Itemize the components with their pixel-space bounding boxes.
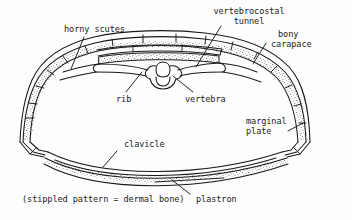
leader-plastron <box>172 180 190 194</box>
turtle-shell-cross-section-figure: horny scutes vertebrocostal tunnel bony … <box>0 0 352 220</box>
marginal-plate-left-seam <box>30 148 36 154</box>
marginal-plate-left-inner <box>30 142 48 152</box>
label-clavicle: clavicle <box>124 139 165 150</box>
costal-plate-left <box>60 72 96 80</box>
vertebra-body <box>156 62 170 77</box>
label-marginal-plate-line1: marginal <box>246 116 287 127</box>
label-vertebrocostal-tunnel-line1: vertebrocostal <box>190 6 308 17</box>
rib-left-cap <box>93 64 99 72</box>
leader-vertebra <box>173 76 193 92</box>
vertebra-left-process <box>145 66 156 79</box>
label-bony-carapace-line2: carapace <box>271 39 312 50</box>
rib-left <box>99 64 148 70</box>
rib-left-lower <box>96 72 146 76</box>
costal-plate-right <box>223 72 261 82</box>
rib-right-lower <box>180 72 223 76</box>
label-bony-carapace-line1: bony <box>278 29 298 40</box>
rib-right-cap <box>219 63 225 72</box>
label-marginal-plate-line2: plate <box>246 126 271 137</box>
label-plastron: plastron <box>196 194 237 205</box>
label-rib: rib <box>116 94 131 105</box>
label-horny-scutes: horny scutes <box>64 24 125 35</box>
label-stipple-key: (stippled pattern = dermal bone) <box>22 194 184 205</box>
diagram-drawing <box>0 0 352 220</box>
vertebra-lower-arch-inner <box>156 77 170 86</box>
marginal-plate-right <box>287 142 310 157</box>
leader-rib <box>126 72 142 92</box>
leader-clavicle <box>103 151 117 167</box>
label-vertebrocostal-tunnel-line2: tunnel <box>190 16 308 27</box>
vertebra-right-process <box>170 66 182 79</box>
vertebra-lower-arch <box>150 79 176 89</box>
shell-outline-group <box>20 31 310 186</box>
marginal-plate-left-mid <box>23 142 45 155</box>
rib-right <box>178 63 219 70</box>
label-vertebra: vertebra <box>185 94 226 105</box>
marginal-plate-right-inner <box>282 142 298 152</box>
marginal-plate-right-mid <box>285 142 306 155</box>
